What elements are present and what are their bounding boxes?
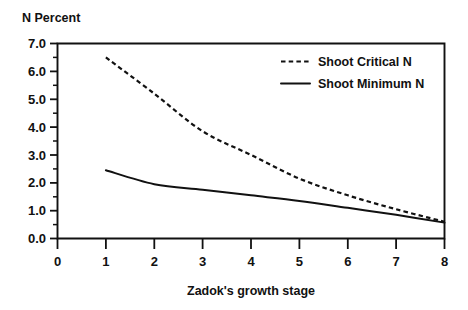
figure-container: N Percent 7.0 6.0 [0, 0, 468, 310]
x-tick-label: 8 [441, 254, 448, 269]
x-tick-label: 1 [102, 254, 109, 269]
y-tick-label: 3.0 [28, 148, 46, 163]
plot-frame [58, 44, 445, 239]
x-axis-title: Zadok's growth stage [187, 284, 315, 298]
y-tick-label: 2.0 [28, 175, 46, 190]
x-tick-label: 0 [54, 254, 61, 269]
series-shoot-minimum-n [106, 170, 445, 222]
y-axis-title: N Percent [22, 11, 81, 25]
legend: Shoot Critical N Shoot Minimum N [281, 55, 424, 91]
y-tick-label: 7.0 [28, 36, 46, 51]
line-chart: N Percent 7.0 6.0 [0, 0, 468, 310]
x-tick-label: 4 [247, 254, 255, 269]
x-axis-tick-labels: 0 1 2 3 4 5 6 7 8 [54, 254, 448, 269]
legend-label-shoot-minimum-n: Shoot Minimum N [318, 77, 424, 91]
y-tick-label: 1.0 [28, 203, 46, 218]
x-tick-label: 2 [151, 254, 158, 269]
y-tick-label: 6.0 [28, 64, 46, 79]
x-tick-label: 6 [344, 254, 351, 269]
x-axis-ticks [58, 239, 445, 250]
x-tick-label: 5 [296, 254, 303, 269]
y-tick-label: 0.0 [28, 231, 46, 246]
x-tick-label: 3 [199, 254, 206, 269]
y-tick-label: 5.0 [28, 92, 46, 107]
x-tick-label: 7 [392, 254, 399, 269]
y-tick-label: 4.0 [28, 120, 46, 135]
legend-label-shoot-critical-n: Shoot Critical N [318, 55, 412, 69]
y-axis-tick-labels: 7.0 6.0 5.0 4.0 3.0 2.0 1.0 0.0 [28, 36, 46, 246]
